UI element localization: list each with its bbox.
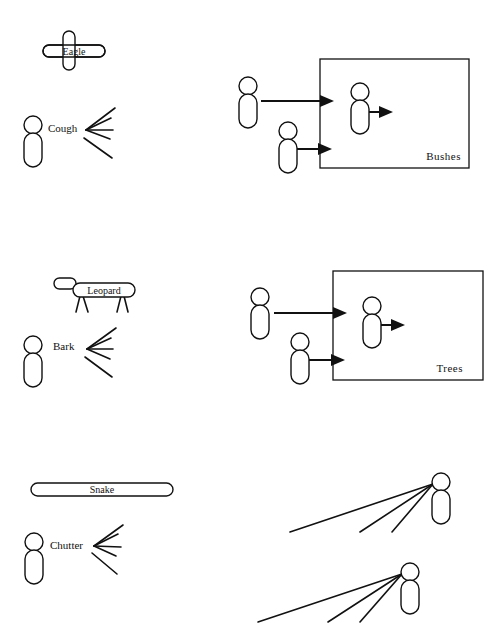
caller-monkey xyxy=(24,116,42,167)
monkey-icon xyxy=(279,122,297,173)
monkey-icon xyxy=(351,83,369,134)
sound-lines-icon xyxy=(85,328,116,377)
call-label: Bark xyxy=(53,340,75,352)
panel-snake: Snake Chutter xyxy=(25,473,450,622)
alarm-call-diagram: Eagle Cough Bushes xyxy=(0,0,499,637)
monkey-icon xyxy=(251,288,269,339)
gaze-lines-icon xyxy=(258,574,402,622)
gaze-lines-icon xyxy=(290,484,433,532)
monkey-icon xyxy=(24,116,42,167)
call-label: Cough xyxy=(48,122,78,134)
panel-eagle: Eagle Cough Bushes xyxy=(24,31,469,173)
leopard-icon: Leopard xyxy=(54,278,135,312)
arrow-icon xyxy=(318,143,332,155)
monkey-icon xyxy=(401,563,419,614)
predator-label: Leopard xyxy=(87,285,120,296)
snake-icon: Snake xyxy=(31,483,173,496)
panel-leopard: Leopard Bark Trees xyxy=(24,271,483,387)
cover-box: Trees xyxy=(333,271,483,380)
sound-lines-icon xyxy=(84,108,115,158)
cover-label: Trees xyxy=(436,362,463,374)
call-label: Chutter xyxy=(50,539,83,551)
arrow-icon xyxy=(333,307,347,319)
monkey-icon xyxy=(291,333,309,384)
arrow-icon xyxy=(379,106,393,118)
monkey-icon xyxy=(432,473,450,524)
cover-box: Bushes xyxy=(320,59,469,168)
eagle-icon: Eagle xyxy=(43,31,105,70)
predator-label: Eagle xyxy=(63,46,86,57)
sound-lines-icon xyxy=(92,525,123,574)
cover-label: Bushes xyxy=(426,150,461,162)
predator-label: Snake xyxy=(90,484,115,495)
monkey-icon xyxy=(25,533,43,584)
arrow-icon xyxy=(391,319,405,331)
monkey-icon xyxy=(24,336,42,387)
monkey-icon xyxy=(239,77,257,128)
arrow-icon xyxy=(331,354,345,366)
arrow-icon xyxy=(320,95,334,107)
monkey-icon xyxy=(363,297,381,348)
